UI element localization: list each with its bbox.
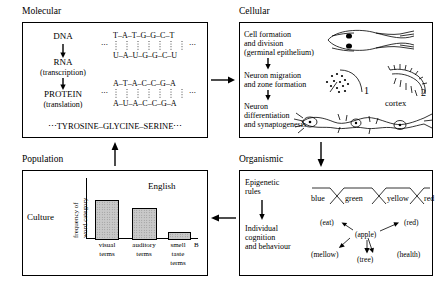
cycle-arrow-population-to-molecular	[0, 0, 442, 286]
